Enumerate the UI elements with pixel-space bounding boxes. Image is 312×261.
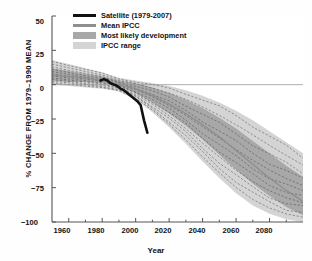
x-tick-2080: 2080: [244, 226, 284, 235]
legend-item-mean-ipcc: Mean IPCC: [73, 21, 186, 30]
y-tick-m50: −50: [14, 151, 44, 160]
legend-swatch-ipcc-range-band-icon: [73, 42, 96, 49]
legend-label-ipcc-range: IPCC range: [101, 41, 141, 50]
chart-canvas: % CHANGE FROM 1979–1990 MEAN Year 50 25 …: [0, 0, 312, 261]
legend-swatch-most-likely-band-icon: [73, 32, 96, 39]
legend-item-satellite: Satellite (1979-2007): [73, 11, 186, 20]
y-tick-25: 25: [14, 50, 44, 59]
legend-swatch-satellite-line-icon: [73, 14, 96, 17]
legend-label-mean-ipcc: Mean IPCC: [101, 21, 140, 30]
y-tick-0: 0: [14, 84, 44, 93]
y-tick-m100: −100: [8, 218, 38, 227]
chart-legend: Satellite (1979-2007) Mean IPCC Most lik…: [73, 11, 186, 51]
y-tick-m25: −25: [14, 117, 44, 126]
legend-label-satellite: Satellite (1979-2007): [101, 11, 172, 20]
legend-item-most-likely: Most likely development: [73, 31, 186, 40]
legend-label-most-likely: Most likely development: [101, 31, 186, 40]
y-tick-m75: −75: [14, 184, 44, 193]
legend-item-ipcc-range: IPCC range: [73, 41, 186, 50]
legend-swatch-mean-line-icon: [73, 24, 96, 26]
chart-root: % CHANGE FROM 1979–1990 MEAN Year 50 25 …: [0, 0, 312, 261]
y-tick-50: 50: [14, 17, 44, 26]
x-axis-label: Year: [0, 246, 312, 255]
